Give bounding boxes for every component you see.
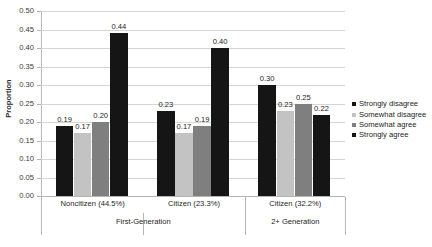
category-label: Noncitizen (44.5%) [42, 199, 143, 208]
legend-item-label: Strongly disagree [359, 99, 418, 109]
group-label: 2+ Generation [245, 217, 346, 226]
bar [56, 126, 74, 196]
category-label: Citizen (32.2%) [245, 199, 346, 208]
y-axis-tick-label: 0.00 [0, 191, 34, 200]
chart-legend: Strongly disagreeSomewhat disagreeSomewh… [352, 99, 432, 141]
bar-value-label: 0.44 [105, 22, 133, 31]
y-axis-tick-label: 0.25 [0, 99, 34, 108]
bar [110, 33, 128, 196]
y-axis-tick-label: 0.20 [0, 117, 34, 126]
bar [175, 133, 193, 196]
category-label: Citizen (23.3%) [143, 199, 244, 208]
legend-item-label: Somewhat disagree [359, 110, 426, 120]
bar-value-label: 0.22 [308, 104, 336, 113]
legend-item[interactable]: Strongly disagree [352, 99, 432, 109]
legend-swatch-icon [352, 102, 356, 106]
y-axis-tick-label: 0.10 [0, 154, 34, 163]
legend-item[interactable]: Somewhat agree [352, 120, 432, 130]
category-axis: Noncitizen (44.5%)Citizen (23.3%)Citizen… [41, 197, 346, 235]
bar [295, 104, 313, 197]
legend-swatch-icon [352, 113, 356, 117]
group-separator [245, 197, 246, 235]
y-axis-tick-label: 0.30 [0, 80, 34, 89]
group-label: First-Generation [42, 217, 245, 226]
bar [211, 48, 229, 196]
bar-chart: Proportion 0.000.050.100.150.200.250.300… [0, 0, 432, 247]
bar-series-layer: 0.190.170.200.440.230.170.190.400.300.23… [41, 11, 345, 196]
bar [74, 133, 92, 196]
bar [277, 111, 295, 196]
y-axis-tick-label: 0.35 [0, 62, 34, 71]
bar-value-label: 0.25 [290, 93, 318, 102]
legend-swatch-icon [352, 133, 356, 137]
y-axis-tick-label: 0.50 [0, 6, 34, 15]
y-axis-tick-label: 0.40 [0, 43, 34, 52]
legend-item[interactable]: Strongly agree [352, 130, 432, 140]
bar-value-label: 0.40 [206, 37, 234, 46]
y-axis-tick-label: 0.45 [0, 25, 34, 34]
legend-swatch-icon [352, 123, 356, 127]
bar-value-label: 0.30 [253, 74, 281, 83]
y-axis-tick-label: 0.05 [0, 173, 34, 182]
bar-value-label: 0.23 [152, 100, 180, 109]
bar [193, 126, 211, 196]
legend-item-label: Somewhat agree [359, 120, 416, 130]
legend-item[interactable]: Somewhat disagree [352, 109, 432, 119]
legend-item-label: Strongly agree [359, 130, 408, 140]
bar [313, 115, 331, 196]
bar [92, 122, 110, 196]
y-axis-tick-label: 0.15 [0, 136, 34, 145]
